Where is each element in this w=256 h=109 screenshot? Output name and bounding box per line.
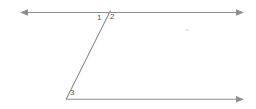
top-line-left-arrowhead bbox=[20, 9, 28, 16]
top-line-right-arrowhead bbox=[236, 9, 244, 16]
angle-label-2: 2 bbox=[110, 13, 114, 21]
angle-label-3: 3 bbox=[70, 89, 74, 97]
bottom-line-right-arrowhead bbox=[236, 96, 244, 103]
angle-label-1: 1 bbox=[97, 14, 101, 22]
stray-artifact-mark bbox=[185, 29, 189, 31]
geometry-canvas bbox=[0, 0, 256, 109]
geometry-diagram: 1 2 3 bbox=[0, 0, 256, 109]
transversal-line bbox=[66, 11, 111, 100]
